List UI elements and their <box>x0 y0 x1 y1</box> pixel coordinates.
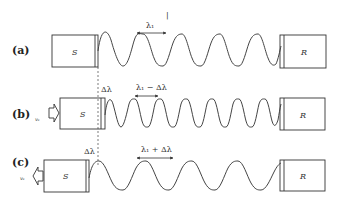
wave-a <box>98 32 281 66</box>
source-box-c: S <box>44 160 89 192</box>
shift-label-b: Δλ <box>101 85 112 94</box>
wavelength-label-c: λ₁ + Δλ <box>141 145 172 154</box>
receiver-box-b: R <box>280 98 325 130</box>
source-label-a: S <box>72 48 78 57</box>
receiver-label-c: R <box>299 172 306 181</box>
row-c: (c) vₛ S Δλ λ₁ + Δλ R <box>12 145 325 192</box>
wavelength-label-b: λ₁ − Δλ <box>136 83 167 92</box>
wave-c <box>89 161 281 190</box>
row-label-b: (b) <box>12 108 30 121</box>
receiver-box-c: R <box>280 160 325 191</box>
velocity-label-b: vₛ <box>35 116 40 122</box>
receiver-label-b: R <box>299 111 306 120</box>
row-b: (b) vₛ S Δλ λ₁ − Δλ R <box>12 83 325 130</box>
top-tick-mark: | <box>166 11 169 20</box>
receiver-box-a: R <box>280 35 326 68</box>
row-label-a: (a) <box>12 44 30 57</box>
row-a: (a) S λ₁ R <box>12 21 326 68</box>
velocity-label-c: vₛ <box>20 175 25 181</box>
motion-arrow-right-icon <box>49 104 59 122</box>
wave-b <box>105 99 281 127</box>
wavelength-label-a: λ₁ <box>146 21 154 30</box>
shift-label-c: Δλ <box>84 147 95 156</box>
row-label-c: (c) <box>12 156 29 169</box>
receiver-label-a: R <box>300 48 307 57</box>
source-label-b: S <box>80 110 86 119</box>
doppler-diagram: | (a) S λ₁ R (b) vₛ S Δλ λ₁ − Δλ <box>0 0 338 202</box>
source-box-a: S <box>52 35 98 67</box>
source-label-c: S <box>63 172 69 181</box>
motion-arrow-left-icon <box>33 167 43 185</box>
